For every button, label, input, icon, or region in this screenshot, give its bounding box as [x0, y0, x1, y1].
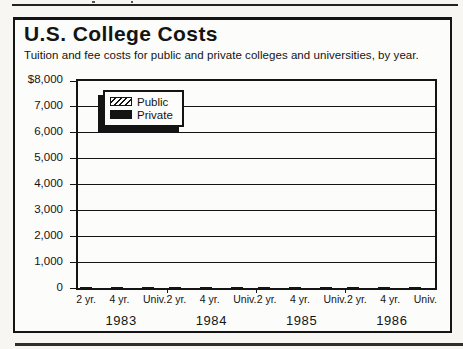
x-cat-row-1984: 2 yr.4 yr.Univ.: [166, 293, 256, 305]
legend-item-public: Public: [110, 95, 173, 108]
y-axis-tick: [70, 184, 78, 185]
bar-pair-1986-2yr: [347, 287, 371, 288]
chart-subtitle: Tuition and fee costs for public and pri…: [24, 49, 419, 61]
y-tick-label: 0: [57, 281, 63, 293]
legend-item-private: Private: [110, 108, 173, 121]
y-tick-label: 3,000: [34, 203, 63, 215]
x-cat-group-1983: 2 yr.4 yr.Univ.: [76, 293, 166, 305]
y-axis-tick: [70, 158, 78, 159]
y-tick-label: 2,000: [34, 229, 63, 241]
bar-pair-1984-2yr: [169, 287, 193, 288]
y-tick-label: $8,000: [28, 73, 63, 85]
bar-public-1984-4yr: [200, 287, 212, 288]
x-cat-label: Univ.: [233, 293, 256, 305]
bar-pair-1985-4yr: [289, 287, 313, 288]
x-cat-group-1984: 2 yr.4 yr.Univ.: [166, 293, 256, 305]
y-axis-tick: [70, 81, 78, 82]
x-cat-label: 4 yr.: [200, 293, 220, 305]
bar-pair-1984-4yr: [200, 287, 224, 288]
legend: Public Private: [103, 90, 184, 127]
x-cat-row-1985: 2 yr.4 yr.Univ.: [257, 293, 347, 305]
x-cat-group-1986: 2 yr.4 yr.Univ.: [347, 293, 437, 305]
x-cat-label: Univ.: [414, 293, 437, 305]
cropped-text-remnant: [92, 1, 95, 3]
y-axis-labels: $8,0007,0006,0005,0004,0003,0002,0001,00…: [15, 79, 69, 287]
x-cat-label: Univ.: [323, 293, 346, 305]
y-tick-label: 4,000: [34, 177, 63, 189]
y-tick-label: 7,000: [34, 99, 63, 111]
bar-pair-1983-2yr: [80, 287, 104, 288]
x-cat-label: 2 yr.: [166, 293, 186, 305]
private-solid-swatch: [110, 110, 132, 119]
chart-figure: U.S. College Costs Tuition and fee costs…: [13, 17, 452, 333]
bar-public-1984-univ: [231, 287, 243, 288]
bar-public-1985-4yr: [289, 287, 301, 288]
bar-public-1985-2yr: [258, 287, 270, 288]
year-group-1985: [257, 81, 346, 288]
public-hatch-swatch: [110, 97, 132, 106]
bar-pair-1984-univ: [231, 287, 255, 288]
year-label-1983: 1983: [76, 313, 166, 328]
year-label-1986: 1986: [347, 313, 437, 328]
year-label-1985: 1985: [257, 313, 347, 328]
x-axis-year-labels: 1983198419851986: [76, 313, 437, 328]
bar-public-1984-2yr: [169, 287, 181, 288]
y-axis-tick: [70, 210, 78, 211]
chart-title: U.S. College Costs: [24, 22, 218, 46]
year-label-1984: 1984: [166, 313, 256, 328]
x-cat-label: 4 yr.: [380, 293, 400, 305]
bar-pair-1986-4yr: [378, 287, 402, 288]
cropped-text-remnant: [131, 1, 133, 3]
x-cat-label: 2 yr.: [257, 293, 277, 305]
x-cat-label: Univ.: [143, 293, 166, 305]
y-axis-tick: [70, 288, 78, 289]
year-group-1986: [346, 81, 435, 288]
x-cat-label: 4 yr.: [290, 293, 310, 305]
bar-pair-1985-2yr: [258, 287, 282, 288]
x-cat-row-1986: 2 yr.4 yr.Univ.: [347, 293, 437, 305]
y-axis-tick: [70, 236, 78, 237]
x-cat-label: 2 yr.: [76, 293, 96, 305]
plot-area: Public Private: [76, 79, 437, 290]
bar-public-1983-4yr: [111, 287, 123, 288]
top-divider-rule: [12, 4, 458, 6]
x-axis-category-labels: 2 yr.4 yr.Univ.2 yr.4 yr.Univ.2 yr.4 yr.…: [76, 293, 437, 305]
y-tick-label: 5,000: [34, 151, 63, 163]
bar-public-1986-univ: [409, 287, 421, 288]
bar-public-1983-univ: [142, 287, 154, 288]
bar-pair-1983-univ: [142, 287, 166, 288]
bar-public-1983-2yr: [80, 287, 92, 288]
x-cat-row-1983: 2 yr.4 yr.Univ.: [76, 293, 166, 305]
y-axis-tick: [70, 262, 78, 263]
bar-pair-1985-univ: [320, 287, 344, 288]
bottom-divider-rule: [15, 343, 463, 346]
y-tick-label: 6,000: [34, 125, 63, 137]
bar-public-1986-4yr: [378, 287, 390, 288]
y-axis-tick: [70, 132, 78, 133]
x-cat-label: 4 yr.: [110, 293, 130, 305]
x-cat-label: 2 yr.: [347, 293, 367, 305]
y-axis-tick: [70, 106, 78, 107]
x-cat-group-1985: 2 yr.4 yr.Univ.: [257, 293, 347, 305]
bar-pair-1983-4yr: [111, 287, 135, 288]
bar-pair-1986-univ: [409, 287, 433, 288]
legend-label-private: Private: [137, 109, 173, 121]
bar-public-1986-2yr: [347, 287, 359, 288]
y-tick-label: 1,000: [34, 255, 63, 267]
legend-label-public: Public: [137, 96, 168, 108]
bar-public-1985-univ: [320, 287, 332, 288]
